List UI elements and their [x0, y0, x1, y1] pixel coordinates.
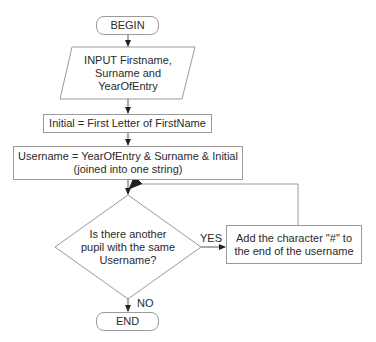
username-step: Username = YearOfEntry & Surname & Initi… [13, 146, 243, 180]
no-label: NO [137, 297, 154, 309]
username-label-1: Username = YearOfEntry & Surname & Initi… [18, 150, 238, 163]
initial-step: Initial = First Letter of FirstName [43, 114, 212, 133]
username-label-2: (joined into one string) [74, 163, 183, 176]
decision-label: Is there another pupil with the same Use… [80, 228, 176, 267]
initial-label: Initial = First Letter of FirstName [49, 117, 206, 130]
begin-label: BEGIN [110, 19, 144, 32]
input-step: INPUT Firstname, Surname and YearOfEntry [70, 49, 186, 97]
end-terminal: END [96, 312, 159, 331]
decision-text: Is there another pupil with the same Use… [80, 224, 176, 270]
begin-terminal: BEGIN [96, 16, 159, 35]
add-char-step: Add the character "#" to the end of the … [226, 225, 362, 264]
yes-label: YES [200, 232, 222, 244]
add-char-label: Add the character "#" to the end of the … [227, 232, 361, 258]
end-label: END [116, 315, 139, 328]
input-label: INPUT Firstname, Surname and YearOfEntry [70, 54, 186, 93]
